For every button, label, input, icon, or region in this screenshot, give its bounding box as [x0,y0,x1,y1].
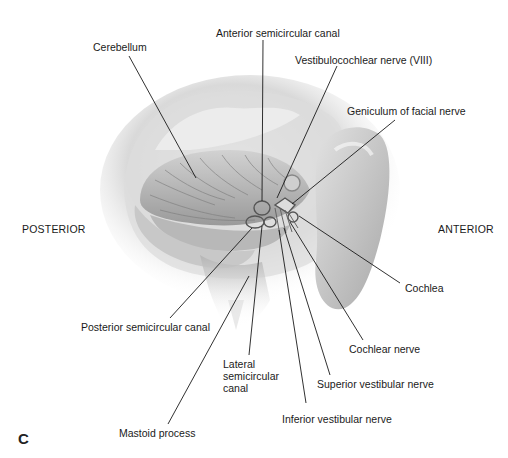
label-posterior-semicircular-canal: Posterior semicircular canal [81,321,210,333]
panel-letter: C [18,430,29,447]
label-inferior-vestibular-nerve: Inferior vestibular nerve [282,413,392,425]
label-anterior-orientation: ANTERIOR [438,223,494,235]
label-cerebellum: Cerebellum [93,41,147,53]
label-geniculum-facial-nerve: Geniculum of facial nerve [347,105,465,117]
label-posterior-orientation: POSTERIOR [22,223,86,235]
label-anterior-semicircular-canal: Anterior semicircular canal [216,27,340,39]
brainstem-region [200,255,270,330]
label-cochlea: Cochlea [405,282,444,294]
label-superior-vestibular-nerve: Superior vestibular nerve [317,378,434,390]
label-cochlear-nerve: Cochlear nerve [349,343,420,355]
anatomy-figure: Cerebellum Anterior semicircular canal V… [0,0,508,458]
label-mastoid-process: Mastoid process [119,427,195,439]
label-lateral-semicircular-canal: Lateral semicircular canal [223,358,279,394]
label-vestibulocochlear-nerve: Vestibulocochlear nerve (VIII) [295,54,432,66]
